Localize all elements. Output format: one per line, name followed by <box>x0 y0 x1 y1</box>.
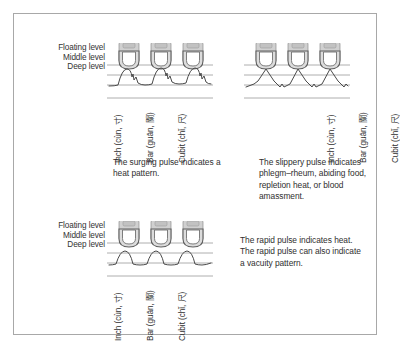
finger-group <box>256 43 340 69</box>
finger-bar <box>288 43 308 69</box>
level-label-middle: Middle level <box>31 53 105 63</box>
position-label-bar: Bar (guān, 關) <box>143 112 155 163</box>
level-label-deep: Deep level <box>31 62 105 72</box>
finger-inch <box>119 221 139 247</box>
position-label-inch: Inch (cùn, 寸) <box>111 115 123 163</box>
level-labels-rapid: Floating level Middle level Deep level <box>31 221 105 250</box>
finger-cubit <box>320 43 340 69</box>
position-label-inch: Inch (cùn, 寸) <box>111 293 123 341</box>
finger-group <box>119 43 203 69</box>
position-label-cubit: Cubit (chǐ, 尺) <box>388 114 400 163</box>
caption-rapid: The rapid pulse indicates heat. The rapi… <box>240 235 365 269</box>
finger-cubit <box>183 221 203 247</box>
figure-frame: Floating level Middle level Deep level <box>13 13 377 335</box>
level-label-floating: Floating level <box>31 221 105 231</box>
waveform-surging <box>109 68 211 86</box>
position-label-inch: Inch (cùn, 寸) <box>324 115 336 163</box>
level-label-middle: Middle level <box>31 231 105 241</box>
finger-bar <box>151 221 171 247</box>
finger-bar <box>151 43 171 69</box>
position-label-cubit: Cubit (chǐ, 尺) <box>175 292 187 341</box>
level-label-deep: Deep level <box>31 240 105 250</box>
finger-cubit <box>183 43 203 69</box>
gridlines <box>107 65 213 98</box>
position-label-bar: Bar (guān, 關) <box>356 112 368 163</box>
caption-slippery: The slippery pulse indicates phlegm–rheu… <box>259 157 384 203</box>
finger-group <box>119 221 203 247</box>
gridlines <box>107 243 213 276</box>
waveform-slippery <box>246 69 348 87</box>
position-label-cubit: Cubit (chǐ, 尺) <box>175 114 187 163</box>
level-label-floating: Floating level <box>31 43 105 53</box>
pulse-graph-surging <box>107 43 213 105</box>
finger-inch <box>256 43 276 69</box>
pulse-graph-rapid <box>107 221 213 283</box>
position-label-bar: Bar (guān, 關) <box>143 290 155 341</box>
pulse-graph-slippery <box>244 43 350 105</box>
finger-inch <box>119 43 139 69</box>
level-labels-surging: Floating level Middle level Deep level <box>31 43 105 72</box>
caption-surging: The surging pulse indicates a heat patte… <box>113 157 233 180</box>
